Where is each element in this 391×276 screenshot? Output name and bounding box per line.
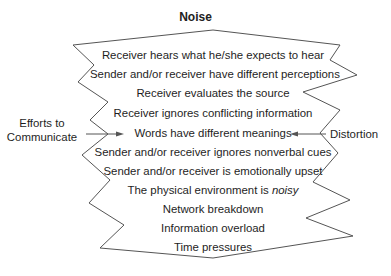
noise-item: Information overload	[90, 221, 336, 235]
noise-item-emphasis: noisy	[272, 184, 299, 196]
left-label-line2: Communicate	[0, 130, 84, 144]
diagram-title: Noise	[0, 10, 391, 24]
noise-item: Sender and/or receiver have different pe…	[90, 67, 336, 81]
left-label-line1: Efforts to	[0, 116, 84, 130]
noise-item: Receiver ignores conflicting information	[90, 106, 336, 120]
noise-item: Words have different meanings	[90, 126, 336, 140]
distortion-label: Distortion	[330, 127, 378, 141]
efforts-to-communicate-label: Efforts to Communicate	[0, 116, 84, 144]
noise-item-prefix: The physical environment is	[128, 184, 272, 196]
noise-item: The physical environment is noisy	[90, 183, 336, 197]
noise-item: Receiver hears what he/she expects to he…	[90, 48, 336, 62]
noise-item: Receiver evaluates the source	[90, 86, 336, 100]
noise-item: Network breakdown	[90, 202, 336, 216]
noise-item: Sender and/or receiver ignores nonverbal…	[90, 145, 336, 159]
noise-item: Time pressures	[90, 240, 336, 254]
noise-item: Sender and/or receiver is emotionally up…	[90, 164, 336, 178]
